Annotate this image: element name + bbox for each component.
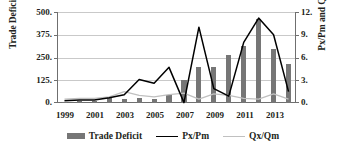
legend-label-trade-deficit: Trade Deficit [89, 131, 142, 141]
y-axis-left-tick-375: 375. [24, 29, 52, 39]
y-axis-left-tick-500: 500. [24, 7, 52, 17]
plot-area [57, 12, 296, 103]
x-axis-tick-1999: 1999 [48, 110, 82, 120]
x-axis-tick-2003: 2003 [108, 110, 142, 120]
x-axis-tick-2001: 2001 [78, 110, 112, 120]
line-qx-qm [64, 92, 288, 100]
legend-item-qx-qm: Qx/Qm [223, 131, 279, 141]
y-axis-left-tick-250: 250. [24, 52, 52, 62]
x-axis-tick-2011: 2011 [228, 110, 262, 120]
line-series-group [57, 12, 296, 103]
y-axis-right-tick-0: 0. [301, 97, 329, 107]
y-right-tickmark [296, 35, 299, 36]
y-axis-right-tick-6: 6. [301, 52, 329, 62]
chart-container: Trade Deficit Px/Pm and Qx/Qm 500. 375. … [0, 0, 346, 157]
y-right-tickmark [296, 12, 299, 13]
y-right-tickmark [296, 80, 299, 81]
x-axis-tick-2007: 2007 [168, 110, 202, 120]
y-axis-left-tick-0: 0. [24, 97, 52, 107]
x-axis-tick-2013: 2013 [258, 110, 292, 120]
legend-item-trade-deficit: Trade Deficit [67, 131, 142, 141]
line-swatch-icon [156, 136, 178, 137]
y-right-tickmark [296, 58, 299, 59]
y-axis-right-tick-9: 9. [301, 29, 329, 39]
y-axis-left-title: Trade Deficit [8, 0, 18, 58]
legend-label-px-pm: Px/Pm [182, 131, 209, 141]
legend-label-qx-qm: Qx/Qm [249, 131, 279, 141]
y-right-tickmark [296, 102, 299, 103]
x-axis-tick-2005: 2005 [138, 110, 172, 120]
line-px-pm [64, 18, 288, 103]
y-axis-right-tick-3: 3. [301, 75, 329, 85]
legend-item-px-pm: Px/Pm [156, 131, 209, 141]
y-axis-left-tick-125: 125. [24, 75, 52, 85]
y-axis-right-tick-12: 12. [301, 7, 329, 17]
x-axis-tick-2009: 2009 [198, 110, 232, 120]
bar-swatch-icon [67, 133, 85, 139]
chart-legend: Trade Deficit Px/Pm Qx/Qm [0, 131, 346, 141]
line-swatch-light-icon [223, 136, 245, 137]
